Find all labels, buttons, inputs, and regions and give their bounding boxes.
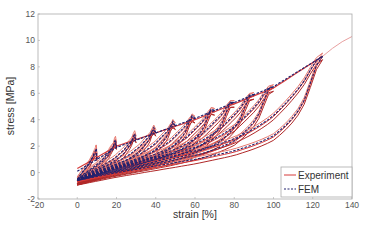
stress-strain-chart: -20020406080100120140-2024681012 strain … [0, 0, 373, 229]
y-tick-label: 4 [30, 115, 35, 125]
y-tick-label: -2 [27, 194, 35, 204]
plot-curves [77, 37, 352, 186]
y-tick-label: 0 [30, 168, 35, 178]
x-axis-label: strain [%] [173, 208, 217, 220]
y-tick-label: 12 [26, 9, 36, 19]
x-tick-label: 140 [345, 200, 359, 210]
x-tick-label: 40 [151, 200, 161, 210]
y-tick-label: 8 [30, 62, 35, 72]
experiment-tail [323, 37, 352, 57]
legend: Experiment FEM [281, 167, 352, 197]
legend-fem-label: FEM [298, 184, 319, 195]
x-tick-label: 20 [112, 200, 122, 210]
legend-experiment-label: Experiment [298, 170, 349, 181]
x-tick-label: 80 [230, 200, 240, 210]
x-tick-label: 0 [75, 200, 80, 210]
x-tick-label: 100 [266, 200, 280, 210]
y-axis-label: stress [MPa] [4, 77, 16, 135]
x-tick-label: 120 [306, 200, 320, 210]
y-tick-label: 2 [30, 141, 35, 151]
y-tick-label: 10 [26, 35, 36, 45]
y-tick-label: 6 [30, 88, 35, 98]
